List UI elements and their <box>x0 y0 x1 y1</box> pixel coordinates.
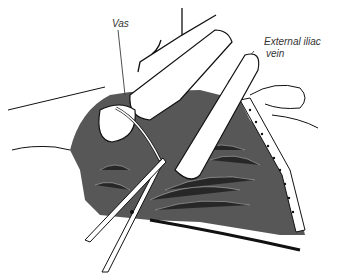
label-external-iliac-line2: vein <box>266 48 284 59</box>
label-external-iliac-line1: External iliac <box>264 36 321 47</box>
vas-leader-line <box>118 30 125 95</box>
label-vas: Vas <box>112 18 129 29</box>
